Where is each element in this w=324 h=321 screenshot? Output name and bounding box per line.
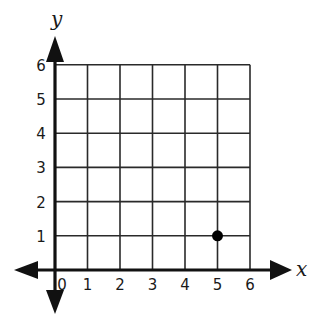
y-tick-label: 4 — [36, 125, 46, 143]
y-tick-label: 5 — [36, 91, 46, 109]
data-points — [212, 230, 223, 241]
x-tick-label: 2 — [115, 276, 125, 294]
y-axis-label: y — [50, 7, 63, 31]
x-tick-labels: 0123456 — [57, 276, 255, 294]
y-tick-label: 2 — [36, 194, 46, 212]
x-axis-right-arrow-icon — [270, 260, 292, 280]
coordinate-plane: 0123456 123456 y x — [0, 0, 324, 321]
y-tick-labels: 123456 — [36, 57, 46, 246]
y-tick-label: 3 — [36, 159, 46, 177]
y-axis-up-arrow-icon — [46, 36, 64, 62]
x-tick-label: 1 — [83, 276, 93, 294]
x-tick-label: 4 — [180, 276, 190, 294]
y-tick-label: 1 — [36, 228, 46, 246]
x-tick-label: 3 — [148, 276, 158, 294]
x-tick-label: 5 — [213, 276, 223, 294]
x-tick-label: 0 — [57, 276, 67, 294]
x-tick-label: 6 — [245, 276, 255, 294]
y-tick-label: 6 — [36, 57, 46, 75]
x-axis-left-arrow-icon — [14, 261, 38, 279]
x-axis-label: x — [296, 257, 307, 281]
data-point — [212, 230, 223, 241]
